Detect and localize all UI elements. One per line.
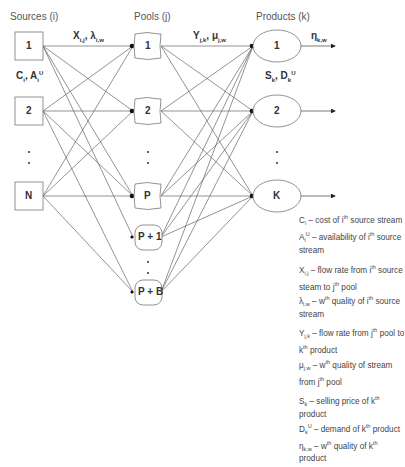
source-pool-flow-label: Xi,j, λi,w bbox=[73, 30, 104, 43]
arrowheads bbox=[130, 44, 255, 294]
product-label-1: 1 bbox=[274, 40, 280, 51]
pools-header: Pools (j) bbox=[134, 11, 171, 22]
legend-source-flow: Xi,j – flow rate from ith source steam t… bbox=[299, 262, 405, 293]
legend-demand: DkU – demand of kth product bbox=[299, 421, 405, 438]
pool-label-P1: P + 1 bbox=[138, 231, 161, 242]
legend-price: Sk – selling price of kth product bbox=[299, 393, 405, 421]
product-label-K: K bbox=[273, 190, 280, 201]
product-quality-label: ηk,w bbox=[311, 30, 327, 43]
product-label-2: 2 bbox=[274, 105, 280, 116]
legend-cost: Ci – cost of ith source stream bbox=[299, 212, 405, 229]
legend: Ci – cost of ith source stream AiU – ava… bbox=[299, 212, 405, 467]
source-label-N: N bbox=[25, 190, 32, 201]
legend-pool-flow: Yj,k – flow rate from jth pool to kth pr… bbox=[299, 325, 405, 356]
legend-source-quality: λi,w – wth quality of ith source stream bbox=[299, 293, 405, 321]
edges-pool-product bbox=[161, 46, 253, 292]
product-params-label: Sk, DkU bbox=[265, 70, 295, 83]
products-header: Products (k) bbox=[256, 11, 310, 22]
legend-product-quality: ηk,w – wth quality of kth product bbox=[299, 438, 405, 466]
pool-label-PB: P + B bbox=[138, 286, 163, 297]
source-label-2: 2 bbox=[26, 105, 32, 116]
legend-pool-quality: μj,w – wth quality of stream from jth po… bbox=[299, 357, 405, 388]
pool-product-flow-label: Yj,k, μj,w bbox=[193, 30, 226, 43]
pool-label-2: 2 bbox=[145, 105, 151, 116]
pool-label-P: P bbox=[144, 190, 151, 201]
edges-source-pool bbox=[43, 46, 133, 292]
product-outflows bbox=[300, 46, 335, 196]
sources-header: Sources (i) bbox=[10, 11, 58, 22]
source-label-1: 1 bbox=[26, 40, 32, 51]
source-params-label: Ci, AiU bbox=[16, 70, 43, 83]
legend-availability: AiU – availability of ith source stream bbox=[299, 229, 405, 257]
pool-label-1: 1 bbox=[145, 40, 151, 51]
